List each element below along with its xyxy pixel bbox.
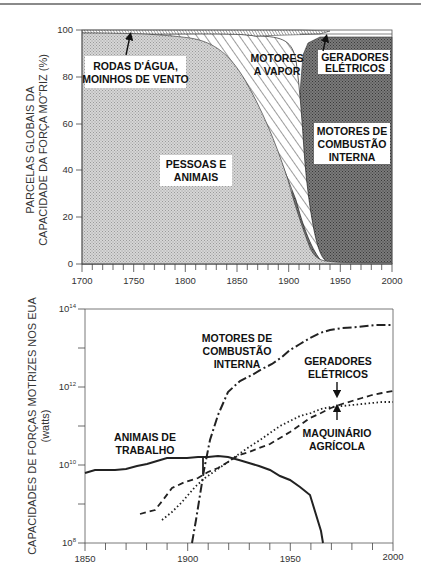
svg-text:INTERNA: INTERNA [214, 358, 261, 370]
svg-text:CAPACIDADES DE FORÇAS MOTRIZES: CAPACIDADES DE FORÇAS MOTRIZES NOS EUA [26, 296, 38, 554]
y-tick-1e14: 1014 [59, 303, 77, 314]
svg-text:ANIMAIS DE: ANIMAIS DE [114, 431, 176, 443]
y-tick-80: 80 [62, 71, 73, 82]
x-tick-1850: 1850 [226, 275, 247, 286]
bottom-y-tick-labels: 1014 1012 1010 108 [59, 303, 77, 548]
svg-text:RODAS D'ÁGUA,: RODAS D'ÁGUA, [93, 60, 178, 72]
top-chart: 0 20 40 60 80 100 [24, 24, 403, 286]
svg-text:INTERNA: INTERNA [329, 151, 376, 163]
y-tick-40: 40 [62, 164, 73, 175]
label-internal-combustion: MOTORES DE COMBUSTÃO INTERNA [314, 123, 390, 164]
label-people-animals: PESSOAS E ANIMAIS [160, 155, 232, 186]
svg-text:MOTORES: MOTORES [251, 52, 304, 64]
x-tick-2000: 2000 [381, 275, 402, 286]
top-x-axis [82, 264, 392, 272]
label-bottom-internal-combustion: MOTORES DE COMBUSTÃO INTERNA [202, 332, 272, 370]
svg-text:CAPACIDADE DA FORÇA MO˜RIZ (%): CAPACIDADE DA FORÇA MO˜RIZ (%) [37, 54, 49, 246]
bottom-y-axis-title: CAPACIDADES DE FORÇAS MOTRIZES NOS EUA (… [26, 296, 51, 554]
svg-text:(watts): (watts) [39, 410, 51, 443]
svg-text:MOTORES DE: MOTORES DE [317, 125, 387, 137]
top-x-tick-labels: 1700 1750 1800 1850 1900 1950 2000 [71, 275, 402, 286]
y-tick-0: 0 [68, 258, 73, 269]
bottom-x-tick-labels: 1850 1900 1950 2000 [74, 551, 403, 564]
svg-text:COMBUSTÃO: COMBUSTÃO [203, 345, 272, 357]
y-tick-20: 20 [62, 211, 73, 222]
label-bottom-agricultural-machinery: MAQUINÁRIO AGRÍCOLA [303, 408, 372, 452]
svg-text:TRABALHO: TRABALHO [116, 444, 175, 456]
svg-text:PARCELAS GLOBAIS DA: PARCELAS GLOBAIS DA [24, 86, 36, 214]
series-agricultural-machinery [162, 402, 393, 520]
figure: 0 20 40 60 80 100 [0, 0, 421, 574]
top-y-axis-title: PARCELAS GLOBAIS DA CAPACIDADE DA FORÇA … [24, 54, 49, 246]
svg-text:A VAPOR: A VAPOR [254, 65, 301, 77]
bottom-y-ticks [78, 309, 85, 543]
svg-text:MOINHOS DE VENTO: MOINHOS DE VENTO [82, 73, 189, 85]
x-tick-1850: 1850 [74, 553, 95, 564]
svg-text:ANIMAIS: ANIMAIS [174, 171, 218, 183]
x-tick-1900: 1900 [177, 553, 198, 564]
label-steam-engines: MOTORES A VAPOR [249, 51, 305, 81]
x-tick-1950: 1950 [280, 553, 301, 564]
label-bottom-draft-animals: ANIMAIS DE TRABALHO [114, 431, 176, 456]
top-y-tick-labels: 0 20 40 60 80 100 [57, 24, 73, 269]
svg-text:PESSOAS E: PESSOAS E [166, 158, 227, 170]
bottom-x-ticks [85, 543, 393, 551]
y-tick-60: 60 [62, 118, 73, 129]
y-tick-100: 100 [57, 24, 73, 35]
x-tick-1950: 1950 [330, 275, 351, 286]
svg-text:MOTORES DE: MOTORES DE [202, 332, 272, 344]
svg-text:GERADORES: GERADORES [304, 355, 372, 367]
y-tick-1e12: 1012 [59, 381, 77, 392]
top-y-axis [76, 30, 82, 264]
bottom-chart: 1014 1012 1010 108 1850 1900 [26, 296, 404, 564]
y-tick-1e10: 1010 [59, 459, 77, 470]
series-electric-generators [140, 391, 393, 514]
svg-text:COMBUSTÃO: COMBUSTÃO [318, 138, 387, 150]
x-tick-1900: 1900 [278, 275, 299, 286]
x-tick-1700: 1700 [71, 275, 92, 286]
x-tick-1800: 1800 [175, 275, 196, 286]
x-tick-1750: 1750 [123, 275, 144, 286]
svg-text:AGRÍCOLA: AGRÍCOLA [309, 440, 365, 452]
svg-text:ELÉTRICOS: ELÉTRICOS [325, 62, 385, 74]
label-bottom-electric-generators: GERADORES ELÉTRICOS [304, 355, 372, 394]
x-tick-2000: 2000 [382, 551, 403, 562]
svg-text:MAQUINÁRIO: MAQUINÁRIO [303, 427, 372, 439]
svg-text:ELÉTRICOS: ELÉTRICOS [308, 368, 368, 380]
y-tick-1e8: 108 [62, 537, 77, 548]
